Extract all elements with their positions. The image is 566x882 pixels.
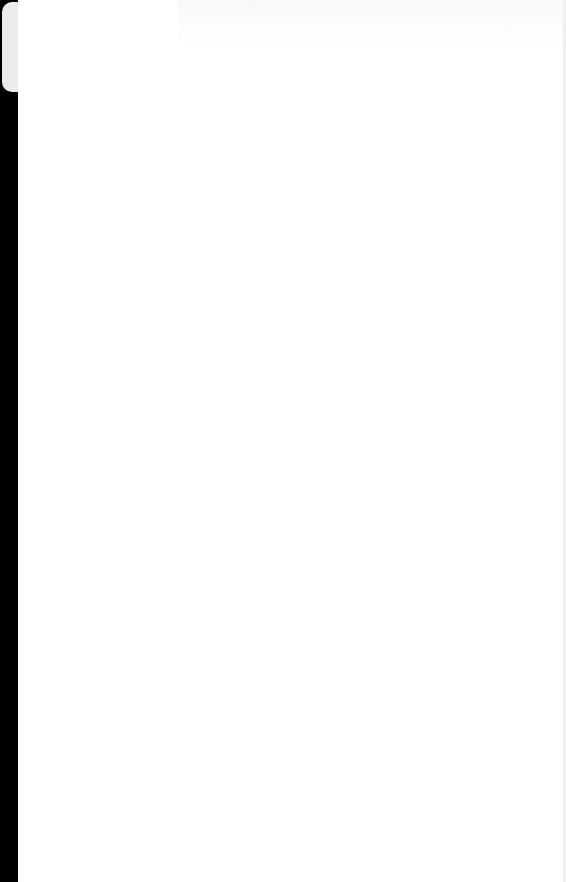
left-bezel bbox=[0, 0, 18, 882]
faded-header bbox=[178, 0, 566, 50]
side-tab-handle[interactable] bbox=[2, 2, 18, 92]
blank-page bbox=[18, 0, 566, 882]
